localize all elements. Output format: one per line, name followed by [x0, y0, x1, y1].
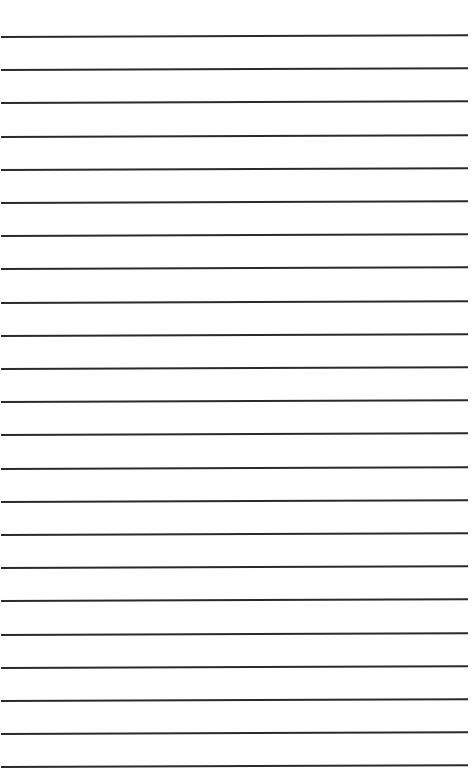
ruled-line	[1, 433, 468, 437]
ruled-line	[1, 499, 468, 503]
ruled-line	[1, 200, 468, 204]
ruled-line	[1, 599, 468, 603]
ruled-line	[1, 333, 468, 337]
ruled-line	[1, 665, 468, 669]
ruled-line	[1, 300, 468, 304]
ruled-line	[1, 566, 468, 570]
ruled-line	[1, 68, 468, 72]
ruled-line	[1, 366, 468, 370]
ruled-line	[1, 698, 468, 702]
ruled-line	[1, 732, 468, 736]
ruled-line	[1, 632, 468, 636]
ruled-line	[1, 134, 468, 138]
ruled-line	[1, 466, 468, 470]
ruled-line	[1, 267, 468, 271]
ruled-line	[1, 101, 468, 105]
ruled-line	[1, 400, 468, 404]
ruled-line	[1, 532, 468, 536]
ruled-line	[1, 765, 468, 769]
ruled-line	[1, 234, 468, 238]
ruled-line	[1, 34, 468, 38]
ruled-line	[1, 167, 468, 171]
